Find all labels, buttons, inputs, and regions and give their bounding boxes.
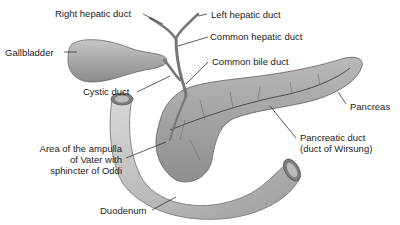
label-common-hepatic-duct: Common hepatic duct bbox=[210, 31, 302, 42]
label-left-hepatic-duct: Left hepatic duct bbox=[211, 9, 281, 20]
gallbladder-shape bbox=[68, 40, 167, 82]
label-pancreatic-duct: Pancreatic duct (duct of Wirsung) bbox=[300, 132, 372, 154]
right-hepatic-duct-shape bbox=[150, 18, 175, 38]
label-pancreas: Pancreas bbox=[350, 101, 390, 112]
label-duodenum: Duodenum bbox=[100, 205, 146, 216]
common-hepatic-and-bile-duct-shape bbox=[176, 38, 186, 96]
label-right-hepatic-duct: Right hepatic duct bbox=[55, 8, 131, 19]
label-gallbladder: Gallbladder bbox=[5, 47, 54, 58]
label-common-bile-duct: Common bile duct bbox=[212, 56, 289, 67]
label-ampulla-of-vater: Area of the ampulla of Vater with sphinc… bbox=[18, 143, 122, 176]
anatomy-diagram: Right hepatic duct Left hepatic duct Gal… bbox=[0, 0, 400, 225]
anatomy-illustration bbox=[0, 0, 400, 225]
label-cystic-duct: Cystic duct bbox=[83, 86, 129, 97]
pancreas-shape bbox=[156, 57, 362, 182]
left-hepatic-duct-shape bbox=[176, 14, 198, 38]
